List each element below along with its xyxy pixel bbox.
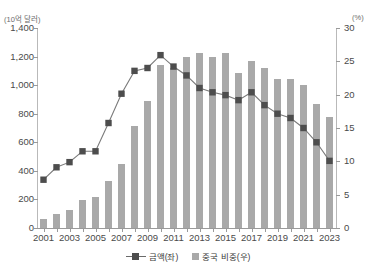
y-axis-tick-label: 1,400 [10,22,34,33]
x-axis-tick-label: 2023 [319,232,340,243]
x-axis-tick-label: 2015 [215,232,236,243]
line-marker [118,91,124,97]
x-axis-tick-mark [317,229,318,232]
y-axis-tick-label: 400 [18,165,34,176]
line-marker [274,111,280,117]
line-marker [222,92,228,98]
y2-axis-tick-label: 0 [344,222,349,233]
line-marker [144,65,150,71]
y2-axis-tick-label: 5 [344,189,349,200]
line-marker [79,148,85,154]
x-axis-tick-mark [187,229,188,232]
x-axis-tick-mark [265,229,266,232]
y2-axis-tick-mark [336,128,340,129]
x-axis-tick-mark [213,229,214,232]
y-axis-tick-label: 1,000 [10,79,34,90]
x-axis-tick-mark [135,229,136,232]
line-marker [287,115,293,121]
line-marker [261,102,267,108]
y2-axis-tick-mark [336,195,340,196]
chart-legend: 금액(좌) 중국 비중(우) [0,250,376,262]
line-marker [196,85,202,91]
line-marker [53,164,59,170]
y2-axis-tick-label: 10 [344,155,355,166]
x-axis-tick-label: 2007 [111,232,132,243]
square-swatch-icon [192,253,199,260]
chart-container: (10억 달러) (%) 1,4001,2001,000800600400200… [0,0,376,272]
line-marker [326,158,332,164]
line-marker [235,97,241,103]
y-axis-tick-label: 600 [18,136,34,147]
x-axis-tick-mark [291,229,292,232]
line-marker [131,68,137,74]
line-marker [300,125,306,131]
line-marker [157,52,163,58]
y2-axis-tick-label: 15 [344,122,355,133]
legend-item-amount: 금액(좌) [126,250,179,262]
x-axis-tick-label: 2021 [293,232,314,243]
y-axis-tick-label: 800 [18,108,34,119]
y-axis-tick-mark [34,228,38,229]
line-marker [209,89,215,95]
y2-axis-tick-label: 20 [344,89,355,100]
y2-axis-tick-label: 25 [344,55,355,66]
line-marker [105,120,111,126]
x-axis-tick-mark [161,229,162,232]
x-axis-tick-label: 2001 [33,232,54,243]
y-axis-tick-label: 1,200 [10,51,34,62]
line-marker [183,72,189,78]
y2-axis-tick-mark [336,228,340,229]
y2-axis-tick-label: 30 [344,22,355,33]
line-marker [248,89,254,95]
x-axis-tick-mark [83,229,84,232]
line-marker [170,63,176,69]
y2-axis-tick-mark [336,95,340,96]
x-axis-tick-label: 2009 [137,232,158,243]
x-axis-tick-label: 2017 [241,232,262,243]
legend-label-amount: 금액(좌) [149,250,179,262]
line-series-amount [37,28,336,228]
legend-item-china-share: 중국 비중(우) [192,250,250,262]
y-axis-tick-label: 200 [18,193,34,204]
line-square-marker-icon [126,252,146,260]
x-axis-tick-label: 2019 [267,232,288,243]
y2-axis-tick-mark [336,28,340,29]
x-axis-tick-mark [239,229,240,232]
x-axis-tick-label: 2013 [189,232,210,243]
y2-axis-tick-mark [336,61,340,62]
x-axis-tick-mark [109,229,110,232]
line-marker [92,148,98,154]
x-axis-tick-mark [57,229,58,232]
line-marker [40,177,46,183]
line-marker [66,159,72,165]
right-axis-unit-label: (%) [352,13,364,22]
x-axis-tick-label: 2003 [59,232,80,243]
line-marker [313,139,319,145]
x-axis-tick-label: 2005 [85,232,106,243]
y2-axis-tick-mark [336,161,340,162]
x-axis-tick-label: 2011 [163,232,183,243]
legend-label-china-share: 중국 비중(우) [202,250,250,262]
